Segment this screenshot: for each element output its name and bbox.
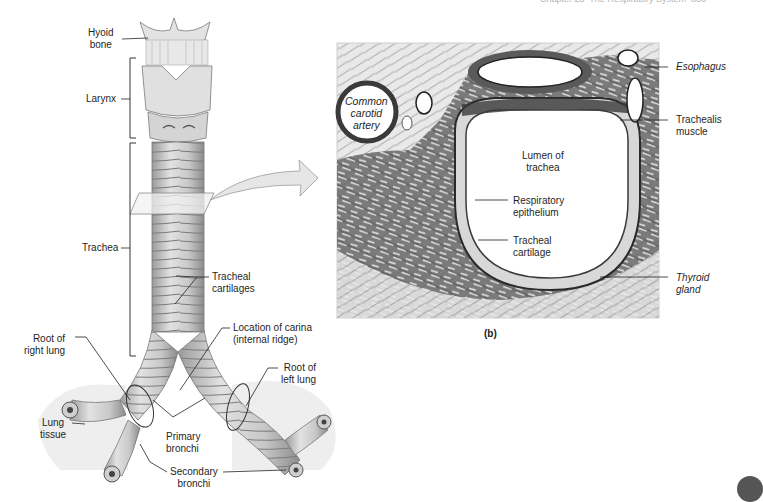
label-esophagus: Esophagus	[676, 61, 726, 73]
label-trachea: Trachea	[82, 242, 118, 254]
label-hyoid-bone: Hyoid bone	[88, 27, 114, 51]
label-common-carotid-artery: Common carotid artery	[345, 95, 388, 131]
label-trachealis-muscle: Trachealis muscle	[676, 114, 722, 138]
panel-b-caption: (b)	[484, 328, 497, 339]
label-tracheal-cartilages: Tracheal cartilages	[212, 271, 255, 295]
label-root-of-left-lung: Root of left lung	[281, 362, 316, 386]
label-root-of-right-lung: Root of right lung	[24, 333, 65, 357]
label-secondary-bronchi: Secondary bronchi	[170, 466, 218, 490]
label-lung-tissue: Lung tissue	[40, 417, 66, 441]
label-primary-bronchi: Primary bronchi	[166, 431, 200, 455]
label-location-of-carina: Location of carina (internal ridge)	[233, 322, 312, 346]
label-thyroid-gland: Thyroid gland	[676, 272, 709, 296]
label-lumen-of-trachea: Lumen of trachea	[522, 150, 564, 174]
page-corner-tab-icon	[737, 476, 763, 502]
label-larynx: Larynx	[86, 93, 116, 105]
label-respiratory-epithelium: Respiratory epithelium	[513, 195, 564, 219]
label-tracheal-cartilage: Tracheal cartilage	[513, 235, 552, 259]
